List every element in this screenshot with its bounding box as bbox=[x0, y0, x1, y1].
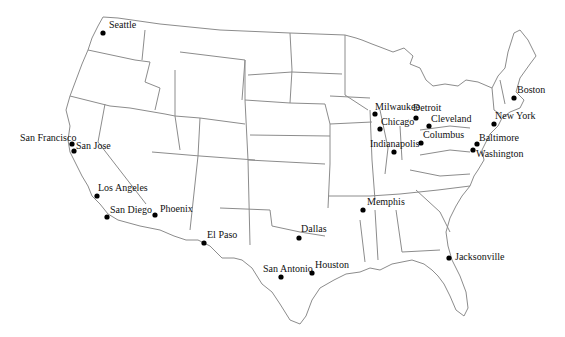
city-dot-icon bbox=[377, 126, 382, 131]
city-label: Phoenix bbox=[160, 203, 193, 214]
city-label: Memphis bbox=[367, 196, 405, 207]
city-marker: Phoenix bbox=[152, 203, 192, 218]
city-dot-icon bbox=[152, 212, 157, 217]
city-dot-icon bbox=[511, 95, 516, 100]
city-label: San Francisco bbox=[20, 132, 76, 143]
city-dot-icon bbox=[391, 149, 396, 154]
city-label: Los Angeles bbox=[98, 182, 148, 193]
city-dot-icon bbox=[309, 270, 314, 275]
city-marker: Chicago bbox=[377, 116, 414, 132]
city-marker: Dallas bbox=[296, 223, 326, 241]
city-dot-icon bbox=[104, 214, 109, 219]
city-dot-icon bbox=[360, 207, 365, 212]
city-dot-icon bbox=[426, 123, 431, 128]
city-dot-icon bbox=[278, 274, 283, 279]
city-label: Indianapolis bbox=[370, 138, 420, 149]
city-label: Detroit bbox=[413, 102, 442, 113]
city-marker: Los Angeles bbox=[94, 182, 147, 199]
city-marker: San Antonio bbox=[263, 263, 313, 280]
city-marker: Houston bbox=[309, 259, 349, 276]
city-marker: San Francisco bbox=[20, 132, 76, 147]
cities-layer: SeattleSan FranciscoSan JoseLos AngelesS… bbox=[0, 0, 565, 337]
city-marker: Indianapolis bbox=[370, 138, 420, 155]
city-dot-icon bbox=[413, 115, 418, 120]
city-label: New York bbox=[495, 110, 536, 121]
city-dot-icon bbox=[372, 111, 377, 116]
city-marker: Baltimore bbox=[474, 132, 519, 147]
city-marker: New York bbox=[491, 110, 535, 127]
city-label: Chicago bbox=[381, 116, 414, 127]
city-marker: Washington bbox=[470, 147, 523, 159]
city-marker: El Paso bbox=[201, 229, 237, 246]
city-label: Washington bbox=[476, 148, 524, 159]
city-label: Cleveland bbox=[431, 113, 472, 124]
city-marker: Boston bbox=[511, 84, 545, 101]
city-marker: San Diego bbox=[104, 204, 152, 220]
city-dot-icon bbox=[296, 235, 301, 240]
city-marker: Memphis bbox=[360, 196, 404, 213]
city-marker: San Jose bbox=[71, 140, 111, 154]
city-label: El Paso bbox=[207, 229, 237, 240]
city-dot-icon bbox=[446, 255, 451, 260]
city-label: Baltimore bbox=[479, 132, 520, 143]
city-label: San Antonio bbox=[263, 263, 313, 274]
city-dot-icon bbox=[201, 240, 206, 245]
city-label: San Jose bbox=[76, 140, 111, 151]
us-map: SeattleSan FranciscoSan JoseLos AngelesS… bbox=[0, 0, 565, 337]
city-label: Houston bbox=[315, 259, 349, 270]
city-label: Dallas bbox=[301, 223, 327, 234]
city-marker: Seattle bbox=[100, 19, 136, 36]
city-label: Seattle bbox=[109, 19, 137, 30]
city-marker: Cleveland bbox=[426, 113, 471, 129]
city-label: Boston bbox=[517, 84, 545, 95]
city-marker: Jacksonville bbox=[446, 251, 505, 262]
city-label: Jacksonville bbox=[455, 251, 505, 262]
city-dot-icon bbox=[100, 30, 105, 35]
city-dot-icon bbox=[94, 193, 99, 198]
city-marker: Columbus bbox=[418, 129, 464, 146]
city-dot-icon bbox=[470, 147, 475, 152]
city-label: Columbus bbox=[423, 129, 464, 140]
city-dot-icon bbox=[491, 121, 496, 126]
city-label: San Diego bbox=[110, 204, 152, 215]
